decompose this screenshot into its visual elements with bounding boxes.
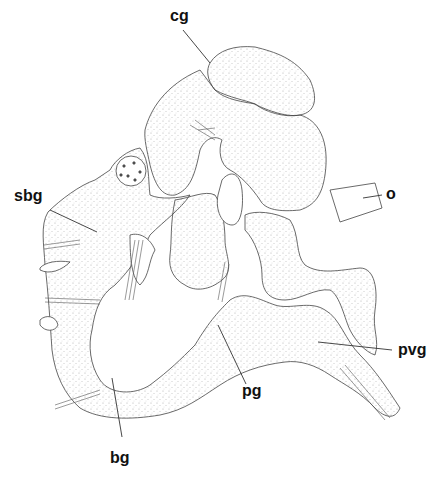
label-sbg: sbg — [14, 188, 42, 204]
oval-hole — [217, 174, 242, 225]
anatomy-drawing — [0, 0, 440, 483]
statocyst — [116, 156, 146, 186]
nerve-o — [330, 183, 382, 222]
label-bg: bg — [110, 450, 130, 466]
label-cg: cg — [170, 8, 189, 24]
label-pvg: pvg — [398, 342, 426, 358]
label-pg: pg — [242, 383, 262, 399]
label-o: o — [386, 186, 396, 202]
diagram-canvas: cg o sbg pvg pg bg — [0, 0, 440, 483]
